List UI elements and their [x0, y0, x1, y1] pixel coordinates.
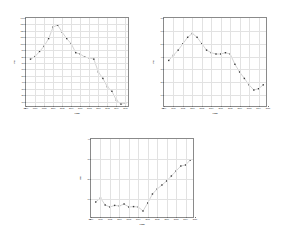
- x-tick-label: 2012: [247, 107, 251, 109]
- data-point-marker: [30, 58, 31, 59]
- x-tick-label: 1996: [171, 107, 175, 109]
- y-tick-label: 10: [161, 94, 163, 96]
- y-tick-mark: [25, 82, 26, 83]
- x-tick-label: 2008: [228, 107, 232, 109]
- y-tick-label: 40: [161, 56, 163, 58]
- data-point-marker: [161, 184, 162, 185]
- x-tick-label: 2014: [256, 107, 260, 109]
- y-tick-label: 20: [161, 81, 163, 83]
- data-point-marker: [196, 37, 197, 38]
- gridline-horizontal: [26, 89, 128, 90]
- gridline-vertical: [148, 139, 149, 217]
- data-point-marker: [95, 201, 96, 202]
- y-tick-label: 70: [161, 17, 163, 19]
- y-tick-mark: [25, 69, 26, 70]
- gridline-horizontal: [26, 95, 128, 96]
- gridline-horizontal: [164, 69, 266, 70]
- gridline-vertical: [129, 139, 130, 217]
- data-point-marker: [39, 51, 40, 52]
- x-tick-label: 2010: [237, 107, 241, 109]
- gridline-horizontal: [164, 95, 266, 96]
- y-tick-mark: [25, 102, 26, 103]
- y-tick-mark: [25, 50, 26, 51]
- data-point-marker: [225, 52, 226, 53]
- data-point-marker: [104, 204, 105, 205]
- data-point-marker: [48, 38, 49, 39]
- y-tick-label: 1400: [20, 17, 24, 19]
- gridline-horizontal: [26, 31, 128, 32]
- data-point-marker: [114, 205, 115, 206]
- x-tick-label: 2006: [78, 107, 82, 109]
- y-axis-title-b: PE: [153, 57, 156, 67]
- y-tick-label: 800: [21, 56, 24, 58]
- gridline-horizontal: [91, 199, 193, 200]
- x-tick-label: 1996: [98, 218, 102, 220]
- y-tick-label: 10: [88, 198, 90, 200]
- data-point-marker: [152, 193, 153, 194]
- x-tick-label: 2012: [105, 107, 109, 109]
- x-tick-label: 2016: [123, 107, 127, 109]
- plot-frame-a: 1994199619982000200220042006200820102012…: [25, 17, 129, 107]
- x-tick-label: 2016: [193, 218, 197, 220]
- gridline-vertical: [186, 139, 187, 217]
- y-axis-title-a: PE: [14, 57, 17, 67]
- x-tick-label: 1998: [108, 218, 112, 220]
- y-tick-mark: [25, 24, 26, 25]
- x-tick-label: 1996: [33, 107, 37, 109]
- y-tick-mark: [25, 31, 26, 32]
- y-tick-label: 400: [21, 81, 24, 83]
- x-axis-title-a: Year: [74, 113, 79, 116]
- chart-panel-a: 1994199619982000200220042006200820102012…: [25, 17, 129, 107]
- data-point-marker: [168, 60, 169, 61]
- x-tick-label: 2004: [209, 107, 213, 109]
- data-point-marker: [177, 49, 178, 50]
- gridline-horizontal: [26, 50, 128, 51]
- data-point-marker: [123, 203, 124, 204]
- x-axis-title-c: Year: [139, 224, 144, 227]
- y-tick-label: 300: [21, 88, 24, 90]
- y-tick-label: 1100: [21, 36, 25, 38]
- gridline-vertical: [110, 139, 111, 217]
- figure-canvas: 1994199619982000200220042006200820102012…: [0, 0, 286, 241]
- x-tick-label: 2010: [164, 218, 168, 220]
- y-tick-mark: [25, 57, 26, 58]
- gridline-vertical: [138, 139, 139, 217]
- gridline-horizontal: [26, 37, 128, 38]
- y-tick-mark: [25, 37, 26, 38]
- y-tick-mark: [163, 69, 164, 70]
- x-tick-label: 2004: [69, 107, 73, 109]
- data-point-marker: [142, 210, 143, 211]
- y-tick-mark: [90, 199, 91, 200]
- data-point-marker: [244, 78, 245, 79]
- plot-frame-c: 1994199619982000200220042006200820102012…: [90, 138, 194, 218]
- data-point-marker: [120, 103, 121, 104]
- data-point-marker: [253, 89, 254, 90]
- y-tick-mark: [163, 31, 164, 32]
- gridline-horizontal: [26, 69, 128, 70]
- y-tick-mark: [163, 108, 164, 109]
- y-tick-label: 200: [21, 94, 24, 96]
- y-tick-label: 1300: [20, 23, 24, 25]
- chart-panel-c: 1994199619982000200220042006200820102012…: [90, 138, 194, 218]
- data-point-marker: [66, 38, 67, 39]
- data-point-marker: [75, 52, 76, 53]
- data-point-marker: [171, 175, 172, 176]
- data-point-marker: [102, 78, 103, 79]
- gridline-horizontal: [26, 63, 128, 64]
- y-tick-mark: [25, 76, 26, 77]
- x-tick-label: 2000: [117, 218, 121, 220]
- data-point-marker: [187, 37, 188, 38]
- gridline-vertical: [100, 139, 101, 217]
- x-tick-label: 1998: [42, 107, 46, 109]
- data-point-marker: [234, 64, 235, 65]
- x-tick-label: 2006: [219, 107, 223, 109]
- data-point-marker: [93, 58, 94, 59]
- x-tick-label: 2000: [51, 107, 55, 109]
- x-tick-label: 2014: [183, 218, 187, 220]
- gridline-vertical: [119, 139, 120, 217]
- y-tick-mark: [90, 159, 91, 160]
- gridline-horizontal: [91, 179, 193, 180]
- data-point-marker: [263, 84, 264, 85]
- data-point-marker: [111, 91, 112, 92]
- y-tick-label: 1200: [20, 30, 24, 32]
